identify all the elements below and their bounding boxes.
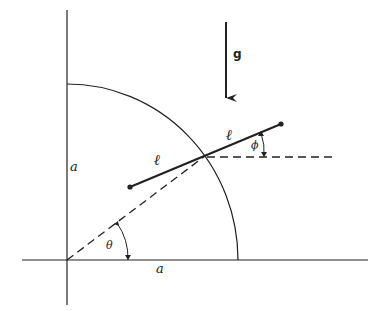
gravity-label: g bbox=[233, 48, 242, 60]
radius-dashed-line bbox=[67, 156, 205, 260]
rod bbox=[130, 124, 281, 187]
phi-label: ϕ bbox=[251, 140, 259, 151]
radius-horizontal-label: a bbox=[156, 262, 164, 275]
radius-vertical-label: a bbox=[70, 160, 78, 173]
rod-right-half-label: ℓ bbox=[226, 128, 232, 143]
phi-arrow-head-bottom bbox=[261, 152, 267, 157]
rod-right-end bbox=[278, 121, 283, 126]
rod-left-end bbox=[127, 184, 132, 189]
quarter-circle-arc bbox=[67, 84, 238, 260]
theta-arrow-head-bottom bbox=[125, 255, 131, 260]
theta-label: θ bbox=[106, 240, 113, 251]
rod-left-half-label: ℓ bbox=[154, 153, 160, 168]
diagram-canvas bbox=[0, 0, 380, 311]
theta-arrow-head-top bbox=[114, 221, 119, 226]
theta-angle-arc bbox=[117, 223, 128, 260]
